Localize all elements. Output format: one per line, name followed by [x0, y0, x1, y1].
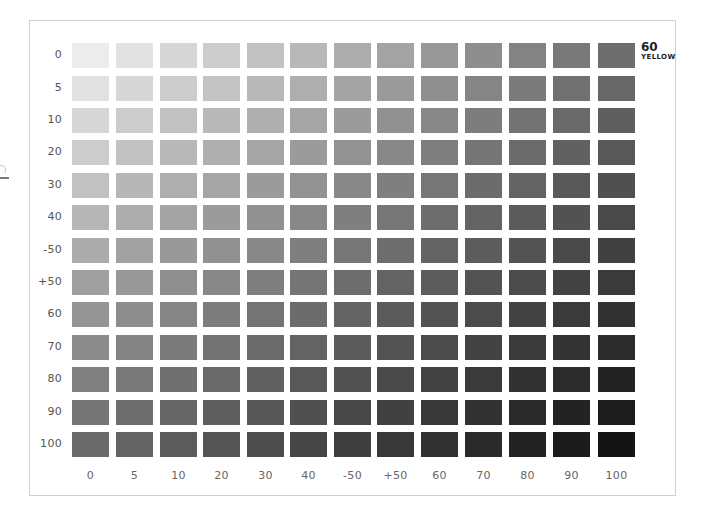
- swatch-row-30-col-5: [116, 173, 153, 198]
- swatch-row-90-col-40: [290, 400, 327, 425]
- swatch-row-70-col-10: [160, 335, 197, 360]
- swatch-row-40-col--50: [334, 205, 371, 230]
- swatch-row-70-col-60: [421, 335, 458, 360]
- chart-title: 60 YELLOW: [641, 41, 676, 61]
- swatch-row-90-col-20: [203, 400, 240, 425]
- row-label: 5: [22, 81, 62, 95]
- swatch-row--50-col-80: [509, 238, 546, 263]
- swatch-row-80-col-60: [421, 367, 458, 392]
- column-label: 100: [595, 469, 639, 483]
- swatch-row-10-col-90: [553, 108, 590, 133]
- swatch-row-10-col-80: [509, 108, 546, 133]
- swatch-row-30-col-0: [72, 173, 109, 198]
- row-label: 10: [22, 113, 62, 127]
- swatch-row-100-col-90: [553, 432, 590, 457]
- swatch-row-60-col-0: [72, 302, 109, 327]
- swatch-row-10-col-70: [465, 108, 502, 133]
- swatch-row-5-col--50: [334, 76, 371, 101]
- swatch-row-0-col-70: [465, 43, 502, 68]
- swatch-row-40-col-+50: [377, 205, 414, 230]
- swatch-row-0-col-0: [72, 43, 109, 68]
- swatch-row-+50-col-90: [553, 270, 590, 295]
- swatch-row-5-col-5: [116, 76, 153, 101]
- swatch-row-80-col-20: [203, 367, 240, 392]
- swatch-row-60-col-60: [421, 302, 458, 327]
- column-label: 20: [200, 469, 244, 483]
- swatch-row-5-col-60: [421, 76, 458, 101]
- swatch-row-+50-col-80: [509, 270, 546, 295]
- swatch-row-20-col-5: [116, 140, 153, 165]
- swatch-row-90-col-70: [465, 400, 502, 425]
- row-label: 40: [22, 210, 62, 224]
- swatch-row-5-col-20: [203, 76, 240, 101]
- column-label: 80: [506, 469, 550, 483]
- swatch-row-20-col-100: [598, 140, 635, 165]
- swatch-row-70-col-70: [465, 335, 502, 360]
- swatch-row-5-col-10: [160, 76, 197, 101]
- swatch-row-100-col-60: [421, 432, 458, 457]
- swatch-row-80-col--50: [334, 367, 371, 392]
- swatch-row-90-col-+50: [377, 400, 414, 425]
- swatch-row-0-col-100: [598, 43, 635, 68]
- swatch-row-70-col-20: [203, 335, 240, 360]
- swatch-row-40-col-5: [116, 205, 153, 230]
- swatch-row-100-col-20: [203, 432, 240, 457]
- swatch-row-30-col-20: [203, 173, 240, 198]
- swatch-row-5-col-80: [509, 76, 546, 101]
- swatch-row-80-col-80: [509, 367, 546, 392]
- swatch-row-100-col-40: [290, 432, 327, 457]
- swatch-row-10-col-+50: [377, 108, 414, 133]
- swatch-row-+50-col-0: [72, 270, 109, 295]
- swatch-row-+50-col--50: [334, 270, 371, 295]
- swatch-row-60-col-+50: [377, 302, 414, 327]
- swatch-row-100-col--50: [334, 432, 371, 457]
- swatch-row-10-col-20: [203, 108, 240, 133]
- swatch-row-10-col-5: [116, 108, 153, 133]
- swatch-row-80-col-100: [598, 367, 635, 392]
- swatch-row-60-col-100: [598, 302, 635, 327]
- swatch-row-70-col-+50: [377, 335, 414, 360]
- swatch-row-30-col-90: [553, 173, 590, 198]
- swatch-row-30-col--50: [334, 173, 371, 198]
- swatch-row-90-col-90: [553, 400, 590, 425]
- swatch-row-+50-col-60: [421, 270, 458, 295]
- swatch-row-+50-col-70: [465, 270, 502, 295]
- swatch-row-30-col-100: [598, 173, 635, 198]
- swatch-row-70-col-100: [598, 335, 635, 360]
- swatch-row-30-col-70: [465, 173, 502, 198]
- swatch-row-60-col-70: [465, 302, 502, 327]
- swatch-row-+50-col-30: [247, 270, 284, 295]
- column-label: 30: [244, 469, 288, 483]
- swatch-row--50-col-70: [465, 238, 502, 263]
- swatch-row-10-col-30: [247, 108, 284, 133]
- swatch-row-60-col-5: [116, 302, 153, 327]
- swatch-row--50-col-60: [421, 238, 458, 263]
- swatch-row-30-col-+50: [377, 173, 414, 198]
- row-label: 0: [22, 48, 62, 62]
- swatch-row-5-col-90: [553, 76, 590, 101]
- swatch-row-5-col-+50: [377, 76, 414, 101]
- swatch-row-60-col-30: [247, 302, 284, 327]
- swatch-row-90-col-10: [160, 400, 197, 425]
- swatch-row-20-col-90: [553, 140, 590, 165]
- swatch-row-60-col-40: [290, 302, 327, 327]
- swatch-row-0-col--50: [334, 43, 371, 68]
- swatch-row-90-col--50: [334, 400, 371, 425]
- swatch-row-0-col-40: [290, 43, 327, 68]
- swatch-row-+50-col-100: [598, 270, 635, 295]
- swatch-row-40-col-10: [160, 205, 197, 230]
- swatch-row-20-col-0: [72, 140, 109, 165]
- swatch-row-10-col--50: [334, 108, 371, 133]
- row-label: 60: [22, 307, 62, 321]
- swatch-row-5-col-0: [72, 76, 109, 101]
- swatch-row-90-col-80: [509, 400, 546, 425]
- swatch-row--50-col-20: [203, 238, 240, 263]
- swatch-row-90-col-30: [247, 400, 284, 425]
- swatch-row-60-col-80: [509, 302, 546, 327]
- row-label: 20: [22, 145, 62, 159]
- swatch-row-0-col-80: [509, 43, 546, 68]
- swatch-row-20-col-+50: [377, 140, 414, 165]
- swatch-row-10-col-10: [160, 108, 197, 133]
- swatch-row-100-col-30: [247, 432, 284, 457]
- swatch-row-90-col-0: [72, 400, 109, 425]
